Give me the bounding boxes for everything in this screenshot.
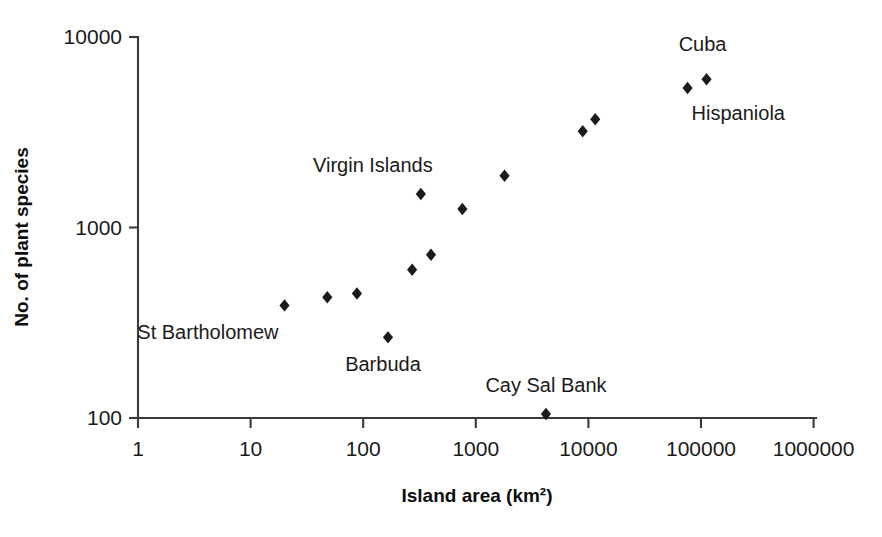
y-tick-labels: 100100010000 [64,25,122,429]
data-marker [416,188,426,200]
data-marker [383,331,393,343]
plot-area: 100100010000 110100100010000100000100000… [0,0,882,537]
y-tick-label-1000: 1000 [75,216,122,239]
data-marker [407,264,417,276]
x-tick-labels: 1101001000100001000001000000 [132,437,854,460]
x-tick-label-10000: 10000 [559,437,617,460]
data-marker [457,203,467,215]
data-marker [426,248,436,260]
y-axis-title: No. of plant species [11,147,32,326]
x-axis-title: Island area (km²) [402,485,553,506]
x-tick-label-100000: 100000 [666,437,736,460]
data-marker [322,291,332,303]
x-axis [138,418,816,428]
annotation-cuba: Cuba [679,33,728,55]
y-axis [129,37,138,418]
annotation-st-bartholomew: St Bartholomew [137,321,279,343]
x-tick-label-10: 10 [239,437,262,460]
annotation-cay-sal-bank: Cay Sal Bank [485,374,607,396]
data-marker [578,125,588,137]
x-tick-label-1: 1 [132,437,144,460]
data-marker [701,73,711,85]
data-marker [590,113,600,125]
x-tick-label-1000000: 1000000 [773,437,855,460]
annotation-virgin-islands: Virgin Islands [313,154,433,176]
annotation-barbuda: Barbuda [345,353,421,375]
scatter-chart: 100100010000 110100100010000100000100000… [0,0,882,537]
x-tick-label-1000: 1000 [452,437,499,460]
data-marker [352,287,362,299]
data-marker [499,170,509,182]
y-tick-label-100: 100 [87,406,122,429]
data-marker [279,299,289,311]
annotation-hispaniola: Hispaniola [692,102,786,124]
data-marker [682,82,692,94]
x-tick-label-100: 100 [346,437,381,460]
y-tick-label-10000: 10000 [64,25,122,48]
